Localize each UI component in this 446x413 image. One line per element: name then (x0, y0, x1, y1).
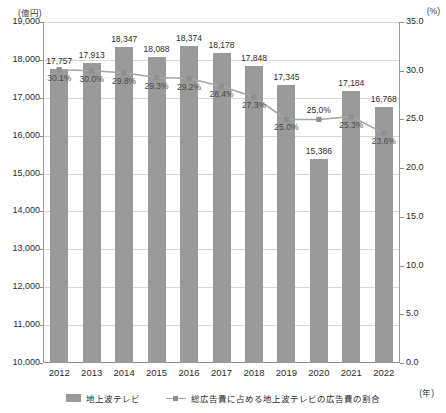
right-axis-tick-mark (400, 22, 404, 23)
left-axis-tick-label: 17,000 (12, 92, 40, 102)
line-marker (57, 67, 62, 72)
right-axis-tick-label: 25.0 (406, 113, 424, 123)
left-axis-tick-label: 18,000 (12, 54, 40, 64)
x-axis-tick-label: 2022 (364, 367, 404, 378)
bar-value-label: 17,913 (68, 50, 116, 60)
bar-value-label: 18,347 (100, 34, 148, 44)
right-axis-tick-mark (400, 119, 404, 120)
line-marker (122, 70, 127, 75)
line-marker (186, 76, 191, 81)
line-marker-swatch-icon (166, 394, 186, 402)
line-marker (154, 75, 159, 80)
bar-swatch-icon (66, 394, 81, 402)
legend-label-bar: 地上波テレビ (86, 392, 140, 404)
bar-value-label: 18,178 (198, 40, 246, 50)
line-marker (219, 84, 224, 89)
bar-value-label: 17,345 (262, 72, 310, 82)
left-axis-tick-label: 16,000 (12, 130, 40, 140)
percentage-label: 27.3% (234, 100, 274, 110)
right-axis-tick-label: 5.0 (406, 308, 419, 318)
right-axis-tick-mark (400, 168, 404, 169)
left-axis-tick-label: 13,000 (12, 243, 40, 253)
left-axis-tick-label: 12,000 (12, 281, 40, 291)
advertising-chart: (億円) (%) (年) 30.1%30.0%29.8%29.3%29.2%28… (0, 0, 446, 413)
legend-item-bar: 地上波テレビ (66, 392, 140, 404)
left-axis-tick-label: 11,000 (13, 319, 40, 329)
bar-value-label: 17,184 (327, 78, 375, 88)
line-marker (316, 117, 321, 122)
right-axis-tick-mark (400, 363, 404, 364)
left-axis-tick-mark (39, 60, 43, 61)
right-axis-tick-label: 35.0 (406, 16, 424, 26)
left-axis-tick-mark (39, 136, 43, 137)
left-axis-tick-mark (39, 249, 43, 250)
right-axis-tick-label: 20.0 (406, 162, 424, 172)
legend-label-line: 総広告費に占める地上波テレビの広告費の割合 (191, 392, 380, 404)
right-axis-tick-mark (400, 71, 404, 72)
right-axis-tick-label: 30.0 (406, 65, 424, 75)
legend-item-line: 総広告費に占める地上波テレビの広告費の割合 (166, 392, 380, 404)
percentage-label: 28.4% (202, 89, 242, 99)
line-marker (89, 68, 94, 73)
percentage-label: 25.3% (331, 120, 371, 130)
bar-value-label: 15,386 (295, 146, 343, 156)
left-axis-tick-mark (39, 325, 43, 326)
line-marker (349, 114, 354, 119)
right-axis-tick-label: 10.0 (406, 260, 424, 270)
right-axis-tick-mark (400, 217, 404, 218)
percentage-label: 25.0% (266, 122, 306, 132)
left-axis-tick-mark (39, 98, 43, 99)
left-axis-tick-label: 19,000 (12, 16, 40, 26)
bar-value-label: 17,848 (230, 53, 278, 63)
line-marker (251, 94, 256, 99)
line-marker (381, 131, 386, 136)
bar-value-label: 18,088 (133, 44, 181, 54)
percentage-label: 23.6% (364, 136, 404, 146)
percentage-label: 25.0% (299, 105, 339, 115)
right-axis-tick-mark (400, 266, 404, 267)
left-axis-tick-label: 15,000 (12, 168, 40, 178)
left-axis-tick-label: 14,000 (12, 205, 40, 215)
right-axis-tick-label: 0.0 (406, 357, 419, 367)
chart-legend: 地上波テレビ 総広告費に占める地上波テレビの広告費の割合 (0, 392, 446, 404)
bar-value-label: 16,768 (360, 94, 408, 104)
right-axis-unit-label: (%) (427, 6, 440, 16)
left-axis-tick-mark (39, 211, 43, 212)
left-axis-tick-mark (39, 363, 43, 364)
plot-area: 30.1%30.0%29.8%29.3%29.2%28.4%27.3%25.0%… (43, 22, 400, 363)
left-axis-tick-mark (39, 287, 43, 288)
right-axis-tick-label: 15.0 (406, 211, 424, 221)
right-axis-tick-mark (400, 314, 404, 315)
line-marker (284, 117, 289, 122)
left-axis-tick-mark (39, 174, 43, 175)
left-axis-tick-label: 10,000 (12, 357, 40, 367)
left-axis-tick-mark (39, 22, 43, 23)
